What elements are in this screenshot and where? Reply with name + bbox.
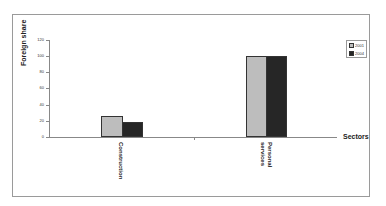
y-tick-label: 60	[28, 86, 44, 90]
y-tick	[46, 72, 49, 73]
bar-personal-services-2001	[246, 56, 267, 137]
bar-construction-2001	[101, 116, 123, 137]
y-axis-title: Foreign share	[20, 20, 27, 66]
y-tick-label: 40	[28, 103, 44, 107]
y-tick	[46, 137, 49, 138]
y-tick	[46, 56, 49, 57]
x-axis-title: Sectors	[343, 133, 369, 140]
x-category-label: Personal services	[259, 142, 273, 167]
y-tick	[46, 40, 49, 41]
legend: 2001 2004	[346, 40, 367, 58]
legend-swatch-icon	[349, 43, 354, 48]
chart-frame	[12, 14, 370, 197]
y-tick	[46, 121, 49, 122]
y-axis	[49, 40, 50, 137]
legend-label: 2001	[355, 43, 364, 48]
y-tick-label: 0	[28, 135, 44, 139]
y-tick-label: 120	[28, 38, 44, 42]
legend-item: 2001	[349, 43, 364, 48]
y-tick	[46, 88, 49, 89]
y-tick	[46, 105, 49, 106]
legend-label: 2004	[355, 51, 364, 56]
y-tick-label: 100	[28, 54, 44, 58]
legend-item: 2004	[349, 51, 364, 56]
y-tick-label: 80	[28, 70, 44, 74]
legend-swatch-icon	[349, 51, 354, 56]
bar-construction-2004	[122, 122, 143, 137]
x-category-label: Construction	[117, 142, 124, 179]
bar-personal-services-2004	[266, 56, 287, 137]
x-tick	[194, 137, 195, 140]
y-tick-label: 20	[28, 119, 44, 123]
x-axis	[49, 137, 337, 138]
